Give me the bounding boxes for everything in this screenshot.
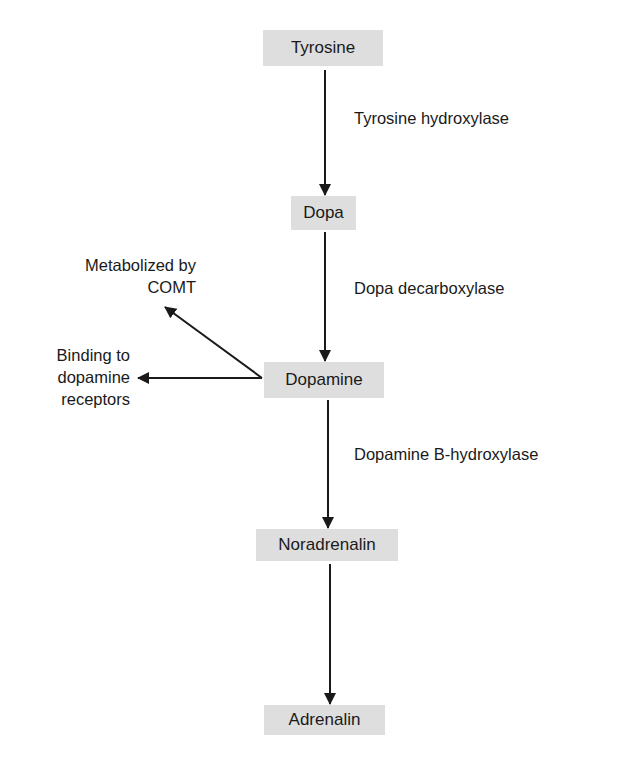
node-noradrenalin: Noradrenalin [256,529,398,561]
enzyme-tyrosine-hydroxylase: Tyrosine hydroxylase [354,107,509,129]
node-adrenalin: Adrenalin [264,705,385,735]
node-dopamine: Dopamine [264,362,384,398]
enzyme-dopamine-b-hydroxylase: Dopamine B-hydroxylase [354,443,538,465]
node-tyrosine: Tyrosine [263,30,383,66]
comt-label-line1: Metabolized by [85,254,196,276]
binding-label-line1: Binding to [57,344,130,366]
binding-label-line3: receptors [61,388,130,410]
binding-label-line2: dopamine [58,366,130,388]
arrow-dopamine-to-comt [165,307,262,378]
comt-label-line2: COMT [147,276,196,298]
node-dopa: Dopa [291,196,356,230]
enzyme-dopa-decarboxylase: Dopa decarboxylase [354,277,504,299]
